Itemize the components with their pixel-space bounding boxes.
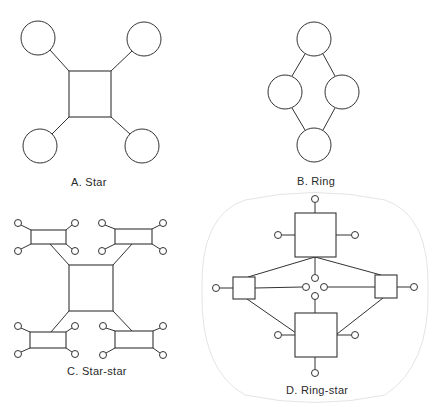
hub-node: [115, 229, 152, 244]
hub-node: [233, 277, 255, 299]
station-node: [125, 129, 159, 163]
panel-label-ring: B. Ring: [297, 175, 335, 187]
terminal-node: [312, 293, 319, 300]
terminal-node: [321, 284, 328, 291]
panel-label-ring-star: D. Ring-star: [286, 384, 348, 396]
hub-node: [69, 265, 113, 311]
terminal-node: [160, 248, 167, 255]
terminal-node: [275, 332, 282, 339]
panel-label-star: A. Star: [71, 176, 107, 188]
terminal-node: [72, 351, 79, 358]
hub-node: [31, 230, 66, 244]
hub-node: [115, 331, 153, 348]
station-node: [23, 129, 57, 163]
terminal-node: [352, 332, 359, 339]
hub-node: [30, 332, 66, 348]
terminal-node: [15, 351, 22, 358]
hub-node: [375, 275, 397, 298]
terminal-node: [72, 323, 79, 330]
terminal-node: [352, 232, 359, 239]
terminal-node: [100, 352, 107, 359]
station-node: [268, 75, 302, 109]
terminal-node: [160, 352, 167, 359]
terminal-node: [312, 196, 319, 203]
station-node: [297, 22, 331, 56]
station-node: [127, 22, 161, 56]
terminal-node: [72, 220, 79, 227]
terminal-node: [160, 220, 167, 227]
terminal-node: [312, 275, 319, 282]
hub-node: [295, 213, 336, 257]
terminal-node: [312, 370, 319, 377]
terminal-node: [411, 284, 418, 291]
terminal-node: [15, 248, 22, 255]
terminal-node: [99, 248, 106, 255]
terminal-node: [213, 285, 220, 292]
terminal-node: [275, 232, 282, 239]
panel-label-star-star: C. Star-star: [67, 365, 127, 377]
terminal-node: [72, 248, 79, 255]
terminal-node: [100, 323, 107, 330]
terminal-node: [15, 323, 22, 330]
network-topology-diagram: [0, 0, 433, 407]
terminal-node: [99, 220, 106, 227]
station-node: [297, 128, 331, 162]
hub-node: [295, 313, 337, 357]
terminal-node: [160, 323, 167, 330]
station-node: [21, 21, 55, 55]
terminal-node: [303, 284, 310, 291]
terminal-node: [15, 220, 22, 227]
hub-node: [69, 71, 111, 117]
station-node: [325, 75, 359, 109]
